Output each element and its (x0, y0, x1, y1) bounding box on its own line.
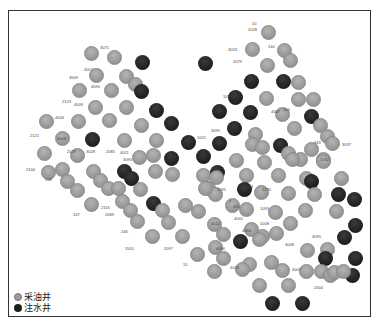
well-id-label: 4007 (292, 268, 301, 272)
well-id-label: 4012 (211, 222, 220, 226)
well-id-label: 101 (223, 95, 230, 99)
well-id-label: 4007 (84, 68, 93, 72)
well-id-label: 3090 (123, 158, 132, 162)
oil-well-marker (145, 229, 160, 244)
well-id-label: 1028 (248, 28, 257, 32)
oil-well-marker (239, 202, 254, 217)
well-id-label: 247 (73, 213, 80, 217)
well-id-label: 3037 (342, 143, 351, 147)
water-injection-well-marker (265, 296, 280, 311)
oil-well-marker (285, 152, 300, 167)
water-injection-well-marker (135, 55, 150, 70)
oil-well-marker (329, 204, 344, 219)
oil-well-marker (239, 168, 254, 183)
water-injection-well-marker (181, 135, 196, 150)
water-injection-well-marker (276, 74, 291, 89)
well-id-label: 3024 (228, 48, 237, 52)
oil-well-marker (104, 83, 119, 98)
well-id-label: 1270 (262, 188, 271, 192)
water-injection-well-marker (196, 149, 211, 164)
well-id-label: 2123 (62, 100, 71, 104)
well-id-label: 2029 (67, 150, 76, 154)
well-id-label: 3095 (312, 235, 321, 239)
water-injection-well-marker (212, 104, 227, 119)
oil-well-marker (216, 227, 231, 242)
oil-well-marker (257, 155, 272, 170)
oil-well-marker (84, 46, 99, 61)
oil-well-marker (336, 264, 351, 279)
well-id-label: 2004 (314, 286, 323, 290)
oil-well-marker (134, 118, 149, 133)
well-id-label: 4006 (216, 247, 225, 251)
well-id-label: 140 (268, 45, 275, 49)
well-id-label: 3028 (86, 150, 95, 154)
oil-well-marker (260, 58, 275, 73)
oil-well-marker (207, 264, 222, 279)
oil-well-marker (229, 153, 244, 168)
oil-well-marker (161, 215, 176, 230)
well-id-label: 1008 (260, 222, 269, 226)
oil-well-marker (300, 243, 315, 258)
oil-well-marker (191, 204, 206, 219)
oil-well-marker (281, 186, 296, 201)
oil-well-marker (146, 148, 161, 163)
oil-well-marker (165, 167, 180, 182)
oil-well-marker (261, 25, 276, 40)
well-id-label: 4005 (234, 217, 243, 221)
oil-well-marker (88, 100, 103, 115)
water-injection-well-marker (134, 84, 149, 99)
oil-well-marker (117, 133, 132, 148)
water-injection-well-marker (227, 121, 242, 136)
well-id-label: 2116 (101, 206, 110, 210)
well-id-label: 2097 (164, 247, 173, 251)
well-id-label: 2079 (233, 60, 242, 64)
oil-well-marker (102, 113, 117, 128)
well-id-label: 2104 (26, 168, 35, 172)
well-id-label: 4009 (74, 103, 83, 107)
water-injection-well-marker (149, 103, 164, 118)
oil-well-marker (306, 92, 321, 107)
oil-well-marker (198, 181, 213, 196)
water-injection-well-marker (243, 105, 258, 120)
water-injection-well-marker (233, 234, 248, 249)
oil-well-marker (281, 278, 296, 293)
oil-well-marker (291, 75, 306, 90)
well-id-label: 7 (229, 200, 231, 204)
oil-well-marker (149, 133, 164, 148)
oil-well-marker (133, 182, 148, 197)
legend-item-water: 注水井 (14, 302, 51, 313)
well-id-label: 4006 (55, 116, 64, 120)
oil-well-marker (268, 205, 283, 220)
water-injection-well-marker (198, 56, 213, 71)
oil-well-marker (269, 226, 284, 241)
water-injection-well-marker (244, 74, 259, 89)
oil-well-marker (107, 50, 122, 65)
oil-well-marker (71, 114, 86, 129)
oil-well-marker (291, 92, 306, 107)
oil-well-marker (190, 247, 205, 262)
well-id-label: 4008 (285, 243, 294, 247)
oil-well-marker (259, 91, 274, 106)
well-id-label: 4004 (242, 229, 251, 233)
well-id-label: 248 (45, 178, 52, 182)
water-injection-well-marker (295, 296, 310, 311)
legend: 采油井 注水井 (14, 291, 51, 313)
oil-well-marker (130, 214, 145, 229)
water-injection-well-marker (164, 116, 179, 131)
legend-label-water: 注水井 (24, 301, 51, 314)
oil-well-marker (264, 255, 279, 270)
oil-well-marker (148, 164, 163, 179)
well-id-label: 246 (121, 230, 128, 234)
well-id-label: 15 (183, 263, 187, 267)
water-injection-well-marker (85, 132, 100, 147)
well-id-label: 1095 (217, 188, 226, 192)
well-id-label: 104 (283, 108, 290, 112)
oil-well-marker (37, 146, 52, 161)
oil-well-marker (271, 168, 286, 183)
well-id-label: 3071 (100, 46, 109, 50)
oil-well-marker (119, 100, 134, 115)
gray-circle-icon (14, 293, 22, 301)
oil-well-marker (70, 183, 85, 198)
oil-well-marker (245, 42, 260, 57)
well-id-label: 3095 (211, 129, 220, 133)
